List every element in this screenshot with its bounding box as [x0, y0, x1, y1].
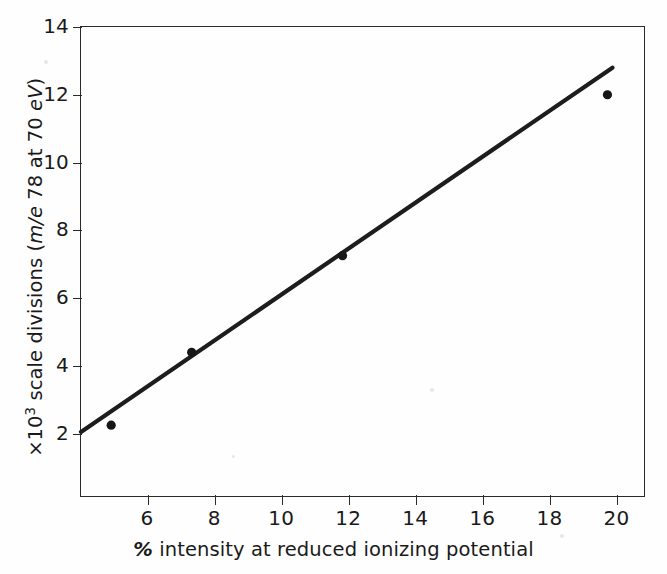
scan-speckle: [430, 388, 434, 392]
data-point-2: [187, 348, 196, 357]
percent-symbol: %: [133, 538, 153, 561]
y-axis-title-suffix: ): [24, 78, 47, 86]
y-axis-title-ev: eV: [24, 85, 47, 111]
x-tick-label-16: 16: [460, 508, 504, 528]
x-tick-label-14: 14: [393, 508, 437, 528]
x-tick-label-12: 12: [326, 508, 370, 528]
fit-line: [81, 68, 612, 432]
y-axis-title: ×103 scale divisions (m/e 78 at 70 eV): [23, 7, 48, 527]
x-axis-title: % intensity at reduced ionizing potentia…: [0, 538, 667, 561]
scan-speckle: [44, 60, 48, 64]
x-tick-label-8: 8: [192, 508, 236, 528]
scan-speckle: [560, 534, 564, 538]
x-tick-label-20: 20: [594, 508, 638, 528]
y-axis-title-mover-e: m/e: [24, 206, 47, 244]
scan-speckle: [232, 455, 235, 458]
data-point-4: [603, 90, 612, 99]
x-tick-label-6: 6: [125, 508, 169, 528]
y-axis-title-middle-2: 78 at 70: [24, 111, 47, 206]
data-point-3: [338, 251, 347, 260]
data-plot-area: [81, 27, 646, 498]
trend-line: [81, 68, 612, 432]
x-axis-title-text: intensity at reduced ionizing potential: [153, 538, 534, 561]
x-tick-label-18: 18: [527, 508, 571, 528]
y-axis-title-exponent: 3: [23, 407, 38, 416]
y-axis-title-middle: scale divisions (: [24, 244, 47, 407]
data-point-group: [107, 90, 612, 430]
plot-frame: [80, 26, 645, 497]
y-axis-title-prefix: ×10: [24, 415, 47, 456]
figure-canvas: 2468101214 68101214161820 % intensity at…: [0, 0, 667, 574]
data-point-1: [107, 421, 116, 430]
x-tick-label-10: 10: [259, 508, 303, 528]
